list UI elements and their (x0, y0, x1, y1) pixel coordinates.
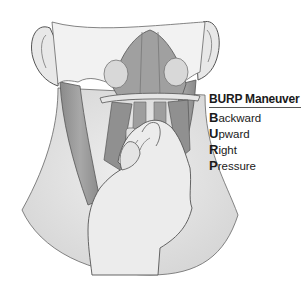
legend-item-pressure: Pressure (209, 158, 301, 174)
burp-legend: BURP Maneuver Backward Upward Right Pres… (209, 92, 301, 174)
left-gland (104, 60, 128, 88)
legend-title: BURP Maneuver (209, 92, 301, 108)
legend-item-backward: Backward (209, 110, 301, 126)
legend-item-upward: Upward (209, 126, 301, 142)
legend-item-right: Right (209, 142, 301, 158)
right-gland (164, 58, 188, 86)
